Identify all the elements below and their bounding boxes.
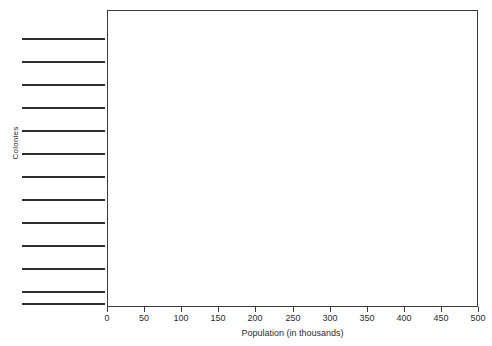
x-tick-label-300: 300 (310, 313, 350, 324)
chart-figure: Colonies 050100150200250300350400450500 … (0, 0, 492, 346)
x-tick-mark-150 (218, 307, 219, 312)
x-tick-mark-100 (181, 307, 182, 312)
x-tick-label-500: 500 (458, 313, 492, 324)
x-tick-label-250: 250 (273, 313, 313, 324)
x-tick-mark-500 (478, 307, 479, 312)
x-tick-label-150: 150 (198, 313, 238, 324)
x-tick-mark-400 (404, 307, 405, 312)
x-axis-title: Population (in thousands) (107, 328, 478, 339)
x-tick-label-0: 0 (87, 313, 127, 324)
x-tick-label-50: 50 (124, 313, 164, 324)
x-tick-mark-350 (367, 307, 368, 312)
x-tick-label-450: 450 (421, 313, 461, 324)
x-tick-label-100: 100 (161, 313, 201, 324)
x-tick-mark-200 (255, 307, 256, 312)
x-axis-ticks: 050100150200250300350400450500 (0, 0, 492, 346)
x-tick-mark-0 (107, 307, 108, 312)
x-tick-label-400: 400 (384, 313, 424, 324)
x-tick-mark-300 (330, 307, 331, 312)
x-tick-label-200: 200 (235, 313, 275, 324)
x-tick-mark-450 (441, 307, 442, 312)
x-tick-label-350: 350 (347, 313, 387, 324)
x-tick-mark-250 (293, 307, 294, 312)
x-tick-mark-50 (144, 307, 145, 312)
